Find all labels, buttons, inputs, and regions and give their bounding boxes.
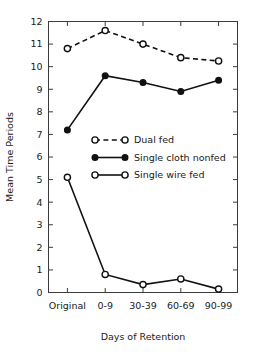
series-1 bbox=[64, 27, 221, 64]
legend-marker bbox=[92, 137, 98, 143]
x-tick-labels: Original0-930-3960-6990-99 bbox=[49, 300, 233, 311]
x-axis-label: Days of Retention bbox=[101, 331, 186, 342]
y-tick-label: 10 bbox=[30, 61, 42, 72]
y-tick-label: 7 bbox=[36, 129, 42, 140]
data-point-marker bbox=[140, 80, 146, 86]
data-point-marker bbox=[178, 89, 184, 95]
line-chart: 0123456789101112 Original0-930-3960-6990… bbox=[0, 0, 266, 360]
y-tick-label: 3 bbox=[36, 219, 42, 230]
legend-label: Dual fed bbox=[134, 134, 174, 145]
y-tick-label: 9 bbox=[36, 84, 42, 95]
x-tick-label: 60-69 bbox=[167, 300, 195, 311]
y-tick-label: 11 bbox=[30, 38, 42, 49]
legend-label: Single wire fed bbox=[134, 169, 204, 180]
legend-entry-3: Single wire fed bbox=[92, 169, 205, 180]
y-tick-label: 6 bbox=[36, 151, 42, 162]
data-point-marker bbox=[216, 77, 222, 83]
data-point-marker bbox=[102, 271, 108, 277]
legend-entry-1: Dual fed bbox=[92, 134, 174, 145]
legend-marker bbox=[122, 172, 128, 178]
series-2 bbox=[65, 73, 222, 133]
data-point-marker bbox=[102, 27, 108, 33]
x-tick-label: 30-39 bbox=[129, 300, 157, 311]
y-axis-label: Mean Time Periods bbox=[4, 112, 15, 202]
y-tick-label: 0 bbox=[36, 287, 42, 298]
chart-legend: Dual fedSingle cloth nonfedSingle wire f… bbox=[92, 134, 226, 180]
legend-marker bbox=[122, 155, 128, 161]
data-point-marker bbox=[140, 41, 146, 47]
data-point-marker bbox=[216, 286, 222, 292]
series-line bbox=[67, 177, 218, 289]
data-point-marker bbox=[216, 58, 222, 64]
legend-marker bbox=[92, 172, 98, 178]
legend-marker bbox=[122, 137, 128, 143]
legend-marker bbox=[92, 155, 98, 161]
data-point-marker bbox=[64, 174, 70, 180]
y-tick-label: 1 bbox=[36, 264, 42, 275]
data-point-marker bbox=[102, 73, 108, 79]
x-tick-label: 90-99 bbox=[205, 300, 233, 311]
legend-label: Single cloth nonfed bbox=[134, 152, 226, 163]
y-tick-label: 2 bbox=[36, 242, 42, 253]
y-tick-label: 5 bbox=[36, 174, 42, 185]
data-point-marker bbox=[178, 55, 184, 61]
data-point-marker bbox=[178, 276, 184, 282]
data-point-marker bbox=[65, 127, 71, 133]
data-point-marker bbox=[140, 281, 146, 287]
y-tick-labels: 0123456789101112 bbox=[30, 16, 42, 298]
legend-entry-2: Single cloth nonfed bbox=[92, 152, 226, 163]
x-tick-label: 0-9 bbox=[97, 300, 113, 311]
series-3 bbox=[64, 174, 221, 292]
y-tick-label: 12 bbox=[30, 16, 42, 27]
data-point-marker bbox=[64, 46, 70, 52]
y-tick-label: 8 bbox=[36, 106, 42, 117]
x-tick-label: Original bbox=[49, 300, 86, 311]
y-tick-label: 4 bbox=[36, 197, 42, 208]
